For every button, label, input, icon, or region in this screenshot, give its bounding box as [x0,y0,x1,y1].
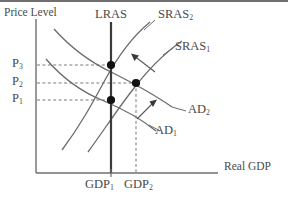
y-tick-p2: P2 [12,75,23,88]
x-axis-label: Real GDP [224,161,271,173]
ad1-label: AD1 [155,124,177,137]
y-axis-label: Price Level [4,7,57,19]
x-tick-gdp2-sub: 2 [149,183,153,192]
sras-shift-arrow-head [131,54,139,62]
ad1-curve [46,59,156,131]
point-p3-gdp1 [107,61,115,69]
x-tick-gdp2: GDP2 [124,178,153,191]
sras1-label: SRAS1 [175,40,210,53]
lras-label: LRAS [95,8,127,21]
ad2-leader [172,107,186,111]
ad1-label-sub: 1 [173,129,177,138]
sras2-label: SRAS2 [158,8,193,21]
y-tick-p1-base: P [12,91,19,105]
point-p1-gdp1 [107,96,115,104]
ad2-label: AD2 [188,103,210,116]
ad2-label-sub: 2 [206,108,210,117]
sras1-label-base: SRAS [175,39,206,53]
y-tick-p3: P3 [12,57,23,70]
y-tick-p2-sub: 2 [19,80,23,89]
sras2-label-sub: 2 [189,13,193,22]
y-tick-p3-sub: 3 [19,62,23,71]
sras2-label-base: SRAS [158,7,189,21]
leader-lines-group [144,20,186,131]
price-guide-lines [37,65,136,172]
x-tick-gdp2-base: GDP [124,177,149,191]
y-tick-p2-base: P [12,74,19,88]
y-tick-p1-sub: 1 [19,97,23,106]
sras1-leader [163,48,173,55]
x-tick-gdp1-sub: 1 [110,183,114,192]
y-tick-p3-base: P [12,56,19,70]
y-tick-p1: P1 [12,92,23,105]
x-tick-gdp1-base: GDP [85,177,110,191]
point-p2-gdp2 [132,79,140,87]
ad2-label-base: AD [188,102,206,116]
ad-as-diagram: Price Level Real GDP LRAS SRAS2 SRAS1 AD… [0,0,288,198]
ad1-label-base: AD [155,123,173,137]
x-tick-gdp1: GDP1 [85,178,114,191]
sras1-label-sub: 1 [206,45,210,54]
